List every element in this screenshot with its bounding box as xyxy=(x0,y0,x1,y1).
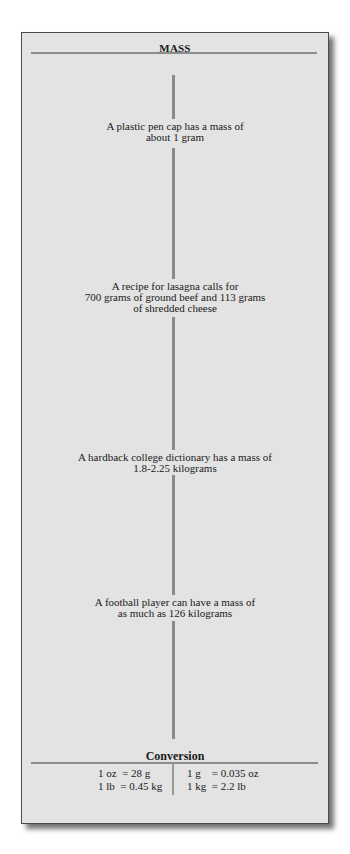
timeline-line xyxy=(172,148,175,279)
fact-line: of shredded cheese xyxy=(22,303,328,314)
conversion-left-row-2: 1 lb = 0.45 kg xyxy=(98,780,162,793)
fact-dictionary: A hardback college dictionary has a mass… xyxy=(22,452,328,474)
conversion-right-row-1: 1 g = 0.035 oz xyxy=(187,767,259,780)
conversion-divider xyxy=(31,762,318,764)
conversion-right-row-2: 1 kg = 2.2 lb xyxy=(187,780,246,793)
mass-panel: MASS A plastic pen cap has a mass of abo… xyxy=(21,32,329,824)
title-divider xyxy=(31,52,317,54)
conversion-left-row-1: 1 oz = 28 g xyxy=(98,767,150,780)
fact-football-player: A football player can have a mass of as … xyxy=(22,597,328,619)
fact-lasagna: A recipe for lasagna calls for 700 grams… xyxy=(22,281,328,314)
fact-line: about 1 gram xyxy=(22,132,328,143)
timeline-line xyxy=(172,621,175,739)
conversion-column-divider xyxy=(172,763,174,795)
fact-line: as much as 126 kilograms xyxy=(22,608,328,619)
fact-line: 1.8-2.25 kilograms xyxy=(22,463,328,474)
timeline-line xyxy=(172,75,175,119)
timeline-line xyxy=(172,317,175,450)
fact-pen-cap: A plastic pen cap has a mass of about 1 … xyxy=(22,121,328,143)
timeline-line xyxy=(172,475,175,595)
